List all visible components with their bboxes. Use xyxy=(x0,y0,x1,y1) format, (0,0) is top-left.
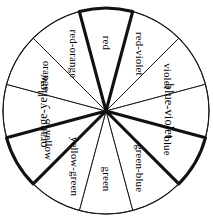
wedge-label-green-blue: green-blue xyxy=(134,144,146,192)
wedge-label-yellow-green: yellow-green xyxy=(69,137,81,197)
wedge-label-green: green xyxy=(101,167,113,192)
wedge-label-red: red xyxy=(101,36,113,51)
wedge-label-red-orange: red-orange xyxy=(68,30,80,79)
wedge-label-red-violet: red-violet xyxy=(134,32,146,76)
color-wheel-svg: redred-violetvioletblue-violetbluegreen-… xyxy=(0,0,213,221)
wedge-label-blue: blue xyxy=(162,136,174,155)
wedge-label-blue-violet: blue-violet xyxy=(162,84,176,139)
wedge-label-orange: orange xyxy=(41,61,53,92)
color-wheel-figure: redred-violetvioletblue-violetbluegreen-… xyxy=(0,0,213,221)
